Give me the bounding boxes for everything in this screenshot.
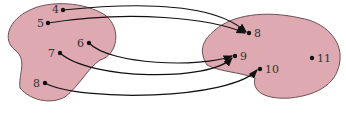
codomain-label-8: 8 xyxy=(254,28,261,39)
domain-label-6: 6 xyxy=(77,38,84,49)
codomain-label-9: 9 xyxy=(240,51,247,62)
domain-label-8: 8 xyxy=(33,78,40,89)
codomain-label-11: 11 xyxy=(317,53,331,64)
domain-label-4: 4 xyxy=(52,4,59,15)
domain-label-5: 5 xyxy=(37,18,44,29)
codomain-label-10: 10 xyxy=(265,64,279,75)
domain-label-7: 7 xyxy=(48,48,55,59)
diagram-canvas xyxy=(0,0,346,120)
mapping-diagram: 4 5 6 7 8 8 9 10 11 xyxy=(0,0,346,120)
